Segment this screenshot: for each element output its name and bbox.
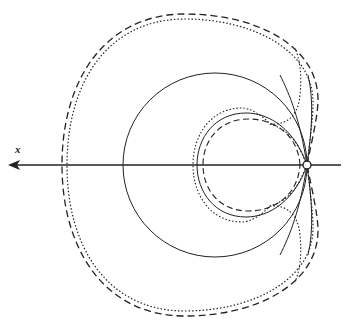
x-axis-label: x (15, 143, 21, 155)
field-line-diagram (0, 0, 351, 331)
origin-marker (303, 161, 311, 169)
solid-upper-lobe (280, 75, 307, 165)
solid-lower-lobe (280, 165, 307, 255)
